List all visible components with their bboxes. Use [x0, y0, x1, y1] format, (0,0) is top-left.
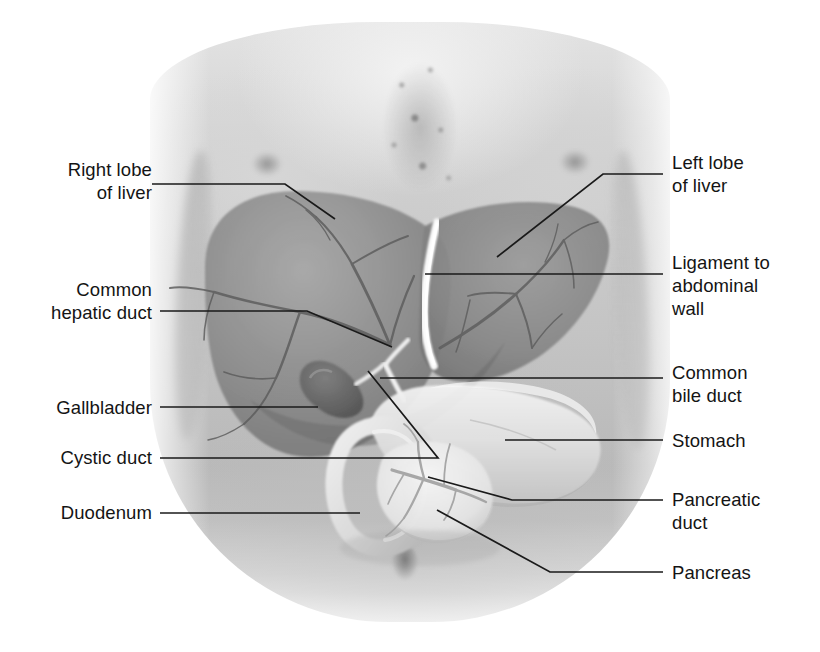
leader-pancreatic-duct — [428, 477, 663, 500]
leader-right-lobe-of-liver — [152, 184, 335, 219]
label-stomach: Stomach — [672, 429, 820, 452]
leader-cystic-duct — [160, 371, 438, 458]
label-common-bile-duct: Common bile duct — [672, 361, 820, 407]
label-ligament-to-abdominal-wall: Ligament to abdominal wall — [672, 251, 820, 320]
label-cystic-duct: Cystic duct — [0, 446, 152, 469]
anatomy-figure: Right lobe of liver Common hepatic duct … — [0, 0, 820, 652]
label-pancreatic-duct: Pancreatic duct — [672, 488, 820, 534]
leader-pancreas — [437, 510, 663, 572]
label-gallbladder: Gallbladder — [0, 396, 152, 419]
label-right-lobe-of-liver: Right lobe of liver — [0, 158, 152, 204]
label-left-lobe-of-liver: Left lobe of liver — [672, 151, 820, 197]
label-duodenum: Duodenum — [0, 501, 152, 524]
leader-line-group — [0, 0, 820, 652]
label-pancreas: Pancreas — [672, 561, 820, 584]
leader-left-lobe-of-liver — [497, 174, 663, 257]
label-common-hepatic-duct: Common hepatic duct — [0, 278, 152, 324]
leader-common-hepatic-duct — [160, 311, 392, 347]
